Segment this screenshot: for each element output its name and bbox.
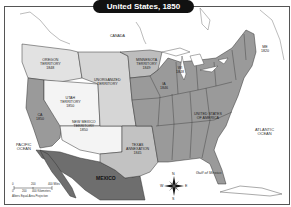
scale-legend: 0 200 400 Miles 0 200 400 Kilometers Alb… xyxy=(12,184,62,198)
label-unorganized-territory: UNORGANIZEDTERRITORY xyxy=(94,78,121,86)
map-canvas xyxy=(0,0,291,207)
label-united-states: UNITED STATESOF AMERICA xyxy=(194,112,222,120)
compass-rose-icon xyxy=(164,176,184,196)
compass-n: N xyxy=(172,172,175,176)
label-canada: CANADA xyxy=(110,34,125,38)
label-gulf-of-mexico: Gulf of Mexico xyxy=(196,171,222,175)
label-california: CA1850 xyxy=(36,113,44,121)
cuba xyxy=(220,186,282,196)
label-minnesota-territory: MINNESOTATERRITORY1849 xyxy=(136,58,157,70)
label-wisconsin: WI1848 xyxy=(176,66,184,74)
label-mexico: MEXICO xyxy=(96,176,116,180)
label-maine: ME1820 xyxy=(261,45,269,53)
label-iowa: IA1846 xyxy=(160,82,168,90)
label-pacific-ocean: PACIFICOCEAN xyxy=(16,143,31,151)
compass-s: S xyxy=(172,197,174,201)
label-new-mexico-territory: NEW MEXICOTERRITORY1850 xyxy=(72,120,96,132)
label-oregon-territory: OREGONTERRITORY1848 xyxy=(40,58,61,70)
label-texas-annexation: TEXASANNEXATION1845 xyxy=(126,143,149,155)
label-utah-territory: UTAHTERRITORY1850 xyxy=(60,96,81,108)
compass-w: W xyxy=(160,184,163,188)
label-atlantic-ocean: ATLANTICOCEAN xyxy=(255,128,274,136)
map-title: United States, 1850 xyxy=(93,0,194,13)
compass-e: E xyxy=(185,184,187,188)
